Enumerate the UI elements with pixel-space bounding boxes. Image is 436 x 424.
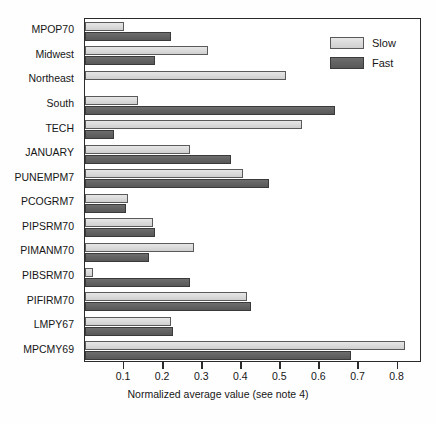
x-axis-tick-labels: 0.10.20.30.40.50.60.70.8 <box>84 370 421 384</box>
x-tick-label-0.7: 0.7 <box>350 370 365 383</box>
bar-chart: MPOP70MidwestNortheastSouthTECHJANUARYPU… <box>0 0 436 424</box>
x-tick-mark-0.8 <box>397 362 398 369</box>
bar-slow-tech <box>85 120 302 129</box>
y-axis-label-pipsrm70: PIPSRM70 <box>22 221 74 232</box>
bar-slow-midwest <box>85 46 208 55</box>
bar-fast-tech <box>85 130 114 139</box>
bar-slow-punempm7 <box>85 169 243 178</box>
x-tick-label-0.6: 0.6 <box>311 370 326 383</box>
bar-fast-mpcmy69 <box>85 351 351 360</box>
legend-item-fast: Fast <box>330 56 424 69</box>
bar-slow-lmpy67 <box>85 317 171 326</box>
legend-label-fast: Fast <box>372 57 393 69</box>
y-axis-label-lmpy67: LMPY67 <box>34 319 74 330</box>
bar-fast-south <box>85 106 335 115</box>
bar-fast-punempm7 <box>85 179 269 188</box>
bar-slow-mpop70 <box>85 22 124 31</box>
x-tick-label-0.4: 0.4 <box>233 370 248 383</box>
bar-fast-lmpy67 <box>85 327 173 336</box>
bar-fast-pibsrm70 <box>85 278 190 287</box>
y-axis-label-south: South <box>47 98 74 109</box>
y-axis-label-pifirm70: PIFIRM70 <box>27 295 74 306</box>
x-tick-label-0.2: 0.2 <box>155 370 170 383</box>
y-axis-label-pcogrm7: PCOGRM7 <box>21 196 74 207</box>
bar-slow-pimanm70 <box>85 243 194 252</box>
x-tick-mark-0.4 <box>240 362 241 369</box>
bar-slow-pcogrm7 <box>85 194 128 203</box>
legend-item-slow: Slow <box>330 36 424 49</box>
bar-slow-january <box>85 145 190 154</box>
x-tick-mark-0.3 <box>201 362 202 369</box>
bar-slow-northeast <box>85 71 286 80</box>
bar-fast-january <box>85 155 231 164</box>
bar-fast-mpop70 <box>85 32 171 41</box>
bar-fast-pimanm70 <box>85 253 149 262</box>
x-tick-mark-0.1 <box>123 362 124 369</box>
y-axis-label-pimanm70: PIMANM70 <box>20 245 74 256</box>
bar-slow-south <box>85 96 138 105</box>
bar-slow-pibsrm70 <box>85 268 93 277</box>
bar-slow-mpcmy69 <box>85 341 405 350</box>
legend-swatch-fast-icon <box>330 57 364 69</box>
y-axis-label-pibsrm70: PIBSRM70 <box>22 270 74 281</box>
bar-slow-pifirm70 <box>85 292 247 301</box>
x-tick-mark-0.6 <box>318 362 319 369</box>
x-tick-mark-0.2 <box>162 362 163 369</box>
y-axis-category-labels: MPOP70MidwestNortheastSouthTECHJANUARYPU… <box>0 18 80 362</box>
x-tick-label-0.5: 0.5 <box>272 370 287 383</box>
bar-fast-pifirm70 <box>85 302 251 311</box>
y-axis-label-midwest: Midwest <box>35 49 74 60</box>
x-axis-tick-marks <box>84 362 421 369</box>
bar-fast-midwest <box>85 56 155 65</box>
x-tick-label-0.8: 0.8 <box>389 370 404 383</box>
y-axis-label-mpcmy69: MPCMY69 <box>23 344 74 355</box>
x-tick-label-0.3: 0.3 <box>194 370 209 383</box>
x-tick-label-0.1: 0.1 <box>116 370 131 383</box>
y-axis-label-tech: TECH <box>45 123 74 134</box>
x-tick-mark-0.5 <box>279 362 280 369</box>
legend-swatch-slow-icon <box>330 37 364 49</box>
bar-fast-pipsrm70 <box>85 228 155 237</box>
y-axis-label-mpop70: MPOP70 <box>31 24 74 35</box>
x-tick-mark-0.7 <box>357 362 358 369</box>
y-axis-label-january: JANUARY <box>25 147 74 158</box>
bar-fast-pcogrm7 <box>85 204 126 213</box>
y-axis-label-punempm7: PUNEMPM7 <box>14 172 74 183</box>
chart-legend: Slow Fast <box>330 36 424 76</box>
legend-label-slow: Slow <box>372 37 396 49</box>
bar-slow-pipsrm70 <box>85 218 153 227</box>
x-axis-title: Normalized average value (see note 4) <box>0 388 436 400</box>
y-axis-label-northeast: Northeast <box>28 73 74 84</box>
